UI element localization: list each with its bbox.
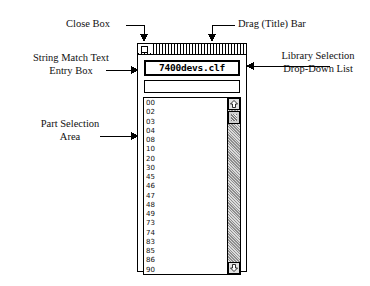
window-body: 7400devs.clf 000203040810203045464748497… [138,55,246,275]
list-item[interactable]: 45 [146,173,227,182]
scroll-down-arrow-icon[interactable] [228,262,240,274]
window-title-drag-bar[interactable] [138,44,246,55]
annotation-close-box-line1: Close Box [66,18,110,31]
annotation-string-match-line2: Entry Box [16,65,126,78]
part-list-scrollbar[interactable] [227,98,240,274]
list-item[interactable]: 03 [146,118,227,127]
annotation-part-line1: Part Selection [14,118,126,131]
annotation-part-selection: Part Selection Area [14,118,126,143]
list-item[interactable]: 74 [146,229,227,238]
library-selection-value: 7400devs.clf [159,63,225,73]
annotation-string-match: String Match Text Entry Box [16,52,126,77]
list-item[interactable]: 49 [146,210,227,219]
list-item[interactable]: 90 [146,266,227,275]
annotation-library-line2: Drop-Down List [268,63,368,76]
annotation-drag-bar-line1: Drag (Title) Bar [238,18,306,31]
scroll-up-arrow-icon[interactable] [228,98,240,110]
annotation-library-dropdown: Library Selection Drop-Down List [268,50,368,75]
list-item[interactable]: 47 [146,192,227,201]
string-match-text-entry-box[interactable] [144,80,240,93]
list-item[interactable]: 00 [146,99,227,108]
list-item[interactable]: 48 [146,201,227,210]
list-item[interactable]: 04 [146,127,227,136]
list-item[interactable]: 20 [146,155,227,164]
annotation-library-line1: Library Selection [268,50,368,63]
library-selection-dropdown[interactable]: 7400devs.clf [144,60,240,76]
annotation-close-box: Close Box [66,18,110,31]
list-item[interactable]: 46 [146,182,227,191]
annotation-string-match-line1: String Match Text [16,52,126,65]
part-selection-window: 7400devs.clf 000203040810203045464748497… [137,43,247,272]
list-item[interactable]: 02 [146,108,227,117]
list-item[interactable]: 30 [146,164,227,173]
annotation-part-line2: Area [14,131,126,144]
list-item[interactable]: 85 [146,247,227,256]
close-box-button[interactable] [141,46,148,53]
part-list[interactable]: 00020304081020304546474849737483858690 [144,98,227,274]
annotation-drag-bar: Drag (Title) Bar [238,18,306,31]
part-selection-area[interactable]: 00020304081020304546474849737483858690 [143,97,241,275]
list-item[interactable]: 86 [146,256,227,265]
list-item[interactable]: 10 [146,145,227,154]
list-item[interactable]: 73 [146,219,227,228]
scrollbar-thumb[interactable] [228,111,240,124]
list-item[interactable]: 83 [146,238,227,247]
list-item[interactable]: 08 [146,136,227,145]
